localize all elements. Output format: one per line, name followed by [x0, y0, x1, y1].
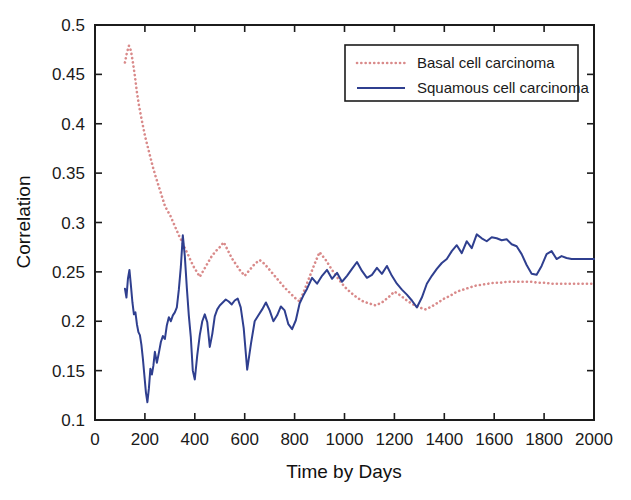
y-tick-label: 0.3	[61, 214, 85, 233]
x-tick-label: 400	[181, 430, 209, 449]
y-tick-label: 0.15	[52, 362, 85, 381]
legend-label-basal: Basal cell carcinoma	[417, 54, 555, 71]
y-tick-label: 0.1	[61, 411, 85, 430]
x-tick-label: 2000	[575, 430, 613, 449]
chart-legend: Basal cell carcinoma Squamous cell carci…	[345, 45, 589, 101]
x-tick-label: 1600	[475, 430, 513, 449]
x-tick-label: 800	[280, 430, 308, 449]
x-tick-label: 1000	[326, 430, 364, 449]
x-tick-label: 1800	[525, 430, 563, 449]
x-tick-label: 200	[131, 430, 159, 449]
y-tick-label: 0.45	[52, 65, 85, 84]
y-axis-title: Correlation	[13, 176, 34, 269]
x-axis-title: Time by Days	[286, 461, 401, 482]
x-tick-label: 0	[90, 430, 99, 449]
y-tick-label: 0.35	[52, 164, 85, 183]
correlation-line-chart: 0200400600800100012001400160018002000 0.…	[0, 0, 631, 500]
y-tick-label: 0.25	[52, 263, 85, 282]
y-tick-label: 0.5	[61, 16, 85, 35]
chart-figure: 0200400600800100012001400160018002000 0.…	[0, 0, 631, 500]
y-tick-label: 0.4	[61, 115, 85, 134]
y-tick-label: 0.2	[61, 312, 85, 331]
x-tick-label: 1400	[425, 430, 463, 449]
x-tick-label: 600	[231, 430, 259, 449]
x-tick-label: 1200	[375, 430, 413, 449]
legend-label-squamous: Squamous cell carcinoma	[417, 79, 589, 96]
